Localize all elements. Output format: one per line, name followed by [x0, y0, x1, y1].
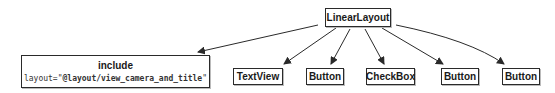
include-node: include layout="@layout/view_camera_and_… [21, 55, 210, 88]
linearlayout-node: LinearLayout [325, 8, 391, 27]
edge-to-checkbox [365, 29, 384, 64]
edge-to-button-1 [331, 29, 350, 64]
textview-label: TextView [237, 71, 279, 82]
attr-close: " [202, 74, 207, 83]
button-node-3: Button [502, 68, 540, 85]
button-label-1: Button [309, 71, 341, 82]
button-node-2: Button [441, 68, 479, 85]
button-node-1: Button [306, 68, 344, 85]
edge-to-include [198, 25, 318, 52]
attr-name: layout=" [24, 74, 63, 83]
checkbox-label: CheckBox [366, 71, 415, 82]
include-label: include [98, 60, 133, 71]
edge-to-button-3 [396, 25, 504, 64]
linearlayout-label: LinearLayout [327, 12, 390, 23]
attr-value: @layout/view_camera_and_title [63, 74, 203, 83]
include-layout-attribute: layout="@layout/view_camera_and_title" [24, 74, 207, 83]
button-label-3: Button [505, 71, 537, 82]
textview-node: TextView [233, 68, 283, 85]
edge-to-textview [284, 28, 336, 64]
edge-to-button-2 [382, 28, 443, 64]
checkbox-node: CheckBox [366, 68, 415, 85]
button-label-2: Button [444, 71, 476, 82]
